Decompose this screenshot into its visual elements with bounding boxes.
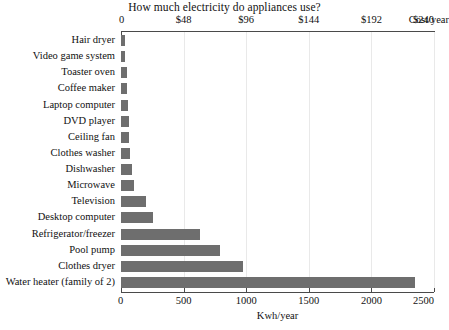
x-tick (246, 288, 247, 292)
category-label: Dishwasher (0, 163, 115, 174)
bar[interactable] (121, 212, 153, 223)
category-label: Coffee maker (0, 82, 115, 93)
category-label: Water heater (family of 2) (0, 276, 115, 287)
category-label: Video game system (0, 50, 115, 61)
x-tick-label: 0 (118, 295, 123, 306)
gridline (434, 32, 435, 290)
category-label: Microwave (0, 179, 115, 190)
bar[interactable] (121, 164, 132, 175)
secondary-x-tick-label: $96 (238, 14, 254, 25)
secondary-x-tick-label: $192 (361, 14, 382, 25)
category-label: Desktop computer (0, 211, 115, 222)
x-axis-line (121, 292, 434, 293)
category-label: Ceiling fan (0, 131, 115, 142)
bar-row[interactable] (121, 48, 434, 64)
bar-row[interactable] (121, 161, 434, 177)
secondary-x-tick-label: $48 (176, 14, 192, 25)
bar-row[interactable] (121, 226, 434, 242)
bar-row[interactable] (121, 274, 434, 290)
category-label: Toaster oven (0, 66, 115, 77)
bar-row[interactable] (121, 32, 434, 48)
x-tick (309, 288, 310, 292)
bar-row[interactable] (121, 145, 434, 161)
x-tick (184, 288, 185, 292)
bar[interactable] (121, 245, 220, 256)
bar[interactable] (121, 180, 134, 191)
electricity-usage-bar-chart: How much electricity do appliances use? … (0, 0, 449, 330)
x-tick (434, 288, 435, 292)
bar[interactable] (121, 261, 243, 272)
x-axis-label: Kwh/year (121, 310, 434, 321)
bar[interactable] (121, 116, 129, 127)
category-label: Pool pump (0, 244, 115, 255)
bar-row[interactable] (121, 97, 434, 113)
category-label: Clothes dryer (0, 260, 115, 271)
category-label: DVD player (0, 115, 115, 126)
category-label: Television (0, 195, 115, 206)
bar[interactable] (121, 196, 146, 207)
bar-row[interactable] (121, 129, 434, 145)
bar-row[interactable] (121, 177, 434, 193)
x-tick-label: 2000 (361, 295, 382, 306)
bar[interactable] (121, 35, 125, 46)
category-axis-labels: Hair dryerVideo game systemToaster ovenC… (0, 32, 118, 290)
bar[interactable] (121, 132, 129, 143)
bar-row[interactable] (121, 242, 434, 258)
bar[interactable] (121, 229, 200, 240)
secondary-x-tick-label: $240 (413, 14, 434, 25)
bar-row[interactable] (121, 193, 434, 209)
category-label: Laptop computer (0, 99, 115, 110)
category-label: Refrigerator/freezer (0, 228, 115, 239)
bar-row[interactable] (121, 258, 434, 274)
secondary-x-tick-label: 0 (119, 14, 124, 25)
bar[interactable] (121, 83, 127, 94)
bar[interactable] (121, 277, 415, 288)
bar-row[interactable] (121, 80, 434, 96)
x-tick-label: 2500 (413, 295, 434, 306)
chart-title: How much electricity do appliances use? (0, 1, 449, 13)
category-label: Hair dryer (0, 34, 115, 45)
bar-row[interactable] (121, 113, 434, 129)
bar[interactable] (121, 67, 127, 78)
plot-area (121, 32, 434, 290)
x-tick-label: 1500 (298, 295, 319, 306)
category-label: Clothes washer (0, 147, 115, 158)
x-tick-label: 500 (176, 295, 192, 306)
bar[interactable] (121, 100, 128, 111)
bar[interactable] (121, 148, 130, 159)
x-tick (121, 288, 122, 292)
secondary-x-tick-label: $144 (298, 14, 319, 25)
bar-row[interactable] (121, 64, 434, 80)
bar[interactable] (121, 51, 125, 62)
bar-row[interactable] (121, 209, 434, 225)
x-tick (371, 288, 372, 292)
x-tick-label: 1000 (236, 295, 257, 306)
